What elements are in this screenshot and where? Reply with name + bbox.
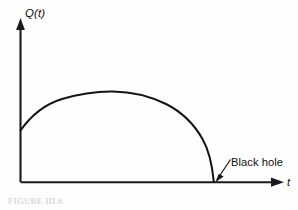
figure-caption: FIGURE III.6 bbox=[8, 197, 63, 206]
qt-curve bbox=[21, 91, 214, 181]
x-axis-label: t bbox=[287, 177, 290, 188]
y-axis-arrowhead bbox=[16, 18, 25, 30]
y-axis-label: Q(t) bbox=[25, 8, 45, 20]
black-hole-annotation-label: Black hole bbox=[231, 157, 283, 168]
x-axis-arrowhead bbox=[271, 178, 284, 187]
annotation-leader-arrowhead bbox=[215, 174, 223, 183]
figure-container: Q(t) t Black hole FIGURE III.6 bbox=[0, 0, 298, 210]
plot-canvas bbox=[0, 0, 298, 210]
